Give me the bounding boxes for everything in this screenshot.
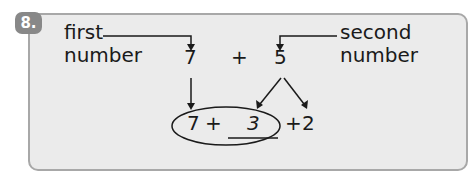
arrowhead-icon xyxy=(187,44,195,51)
arrowhead-icon xyxy=(276,44,284,51)
split-arrow-left xyxy=(260,78,281,104)
split-arrow-right xyxy=(284,78,304,104)
make-ten-ellipse xyxy=(172,107,280,145)
first-number-arrow xyxy=(103,36,191,46)
arrowhead-icon xyxy=(187,103,195,110)
second-number-arrow xyxy=(280,36,337,46)
